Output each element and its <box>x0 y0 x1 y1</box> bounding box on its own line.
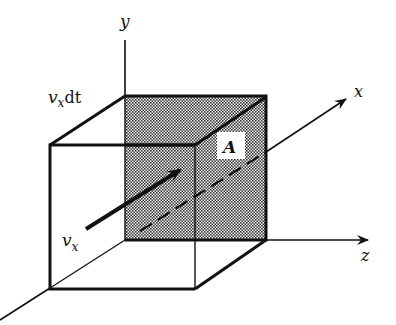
y-axis-label: y <box>119 11 130 31</box>
edge-bottom-right <box>195 240 266 289</box>
x-axis-upper <box>266 99 346 152</box>
flux-box-diagram: A y x z vxdt vx <box>0 0 396 325</box>
x-axis-label: x <box>354 82 363 101</box>
area-label: A <box>221 137 236 157</box>
z-axis-label: z <box>360 246 370 265</box>
x-axis-lower <box>0 288 50 320</box>
length-label: vxdt <box>48 87 82 110</box>
velocity-label: vx <box>62 230 79 254</box>
